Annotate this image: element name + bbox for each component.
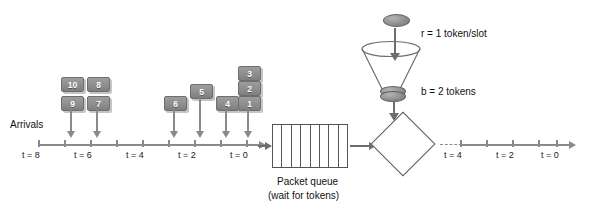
- axis-tick: [220, 140, 222, 147]
- incoming-token-icon: [383, 14, 410, 27]
- axis-tick: [116, 140, 118, 147]
- packet-box: 10: [61, 77, 84, 92]
- diagram-canvas: Arrivals 10 9 8 7 6 5 4 3 2 1 t = 8 t = …: [0, 0, 594, 216]
- packet-box: 9: [61, 96, 84, 111]
- arrival-arrow-head: [222, 131, 230, 138]
- axis-tick: [460, 140, 462, 147]
- packet-box: 5: [190, 84, 213, 99]
- axis-tick-label: t = 0: [230, 150, 248, 160]
- arrivals-label: Arrivals: [10, 119, 43, 130]
- axis-tick: [538, 140, 540, 147]
- packet-box: 3: [238, 66, 261, 81]
- token-rate-label: r = 1 token/slot: [421, 28, 487, 39]
- axis-tick: [168, 140, 170, 147]
- axis-tick-label: t = 4: [444, 150, 462, 160]
- packet-box: 6: [164, 96, 187, 111]
- packet-queue: [272, 124, 348, 168]
- arrival-arrow-head: [67, 131, 75, 138]
- axis-tick: [512, 140, 514, 147]
- axis-tick-label: t = 0: [541, 150, 559, 160]
- queue-caption-line1: Packet queue: [277, 176, 338, 187]
- axis-tick: [246, 140, 248, 147]
- axis-tick: [64, 140, 66, 147]
- packet-box: 8: [87, 77, 110, 92]
- queue-output-arrow-shaft: [350, 145, 370, 147]
- queue-input-arrow-head: [265, 142, 272, 150]
- arrival-arrow-shaft: [96, 110, 98, 132]
- axis-tick: [90, 140, 92, 147]
- arrival-arrow-shaft: [225, 110, 227, 132]
- queue-divider: [291, 125, 292, 167]
- arrival-arrow-head: [93, 131, 101, 138]
- queue-divider: [328, 125, 329, 167]
- departures-axis-line: [460, 144, 570, 146]
- bucket-size-label: b = 2 tokens: [421, 86, 476, 97]
- axis-tick: [556, 140, 558, 147]
- packet-box: 1: [238, 96, 261, 111]
- arrival-arrow-head: [244, 131, 252, 138]
- axis-tick: [194, 140, 196, 147]
- axis-tick-label: t = 2: [178, 150, 196, 160]
- queue-divider: [319, 125, 320, 167]
- arrival-arrow-head: [170, 131, 178, 138]
- arrivals-axis-line: [38, 144, 260, 146]
- axis-tick: [38, 140, 40, 147]
- arrival-arrow-head: [196, 131, 204, 138]
- axis-tick: [486, 140, 488, 147]
- packet-box: 7: [87, 96, 110, 111]
- queue-divider: [310, 125, 311, 167]
- departure-dashed-connector: [440, 144, 462, 145]
- queue-divider: [300, 125, 301, 167]
- arrival-arrow-shaft: [247, 110, 249, 132]
- queue-divider: [338, 125, 339, 167]
- arrival-arrow-shaft: [199, 98, 201, 132]
- packet-box: 4: [216, 96, 239, 111]
- arrival-arrow-shaft: [173, 110, 175, 132]
- queue-caption-line2: (wait for tokens): [268, 190, 339, 201]
- axis-tick-label: t = 2: [496, 150, 514, 160]
- arrival-arrow-shaft: [70, 110, 72, 132]
- queue-divider: [281, 125, 282, 167]
- axis-tick: [142, 140, 144, 147]
- axis-tick-label: t = 4: [126, 150, 144, 160]
- packet-box: 2: [238, 81, 261, 96]
- axis-tick-label: t = 6: [74, 150, 92, 160]
- axis-tick-label: t = 8: [22, 150, 40, 160]
- departures-axis-arrowhead: [569, 141, 576, 149]
- token-gate-diamond: [370, 111, 435, 176]
